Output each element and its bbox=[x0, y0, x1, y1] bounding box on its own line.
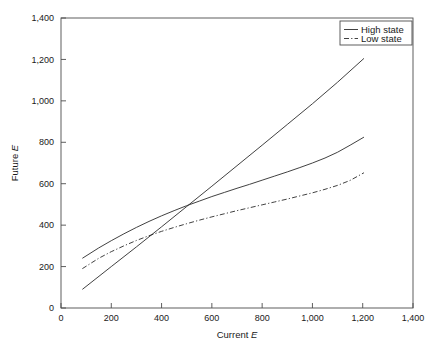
x-tick-label: 400 bbox=[154, 313, 169, 323]
y-tick-label: 1,400 bbox=[31, 13, 54, 23]
series-line-low-state-2 bbox=[82, 173, 364, 269]
x-tick-label: 1,400 bbox=[402, 313, 425, 323]
y-tick-label: 1,200 bbox=[31, 55, 54, 65]
x-tick-label: 0 bbox=[58, 313, 63, 323]
y-tick-label: 600 bbox=[39, 179, 54, 189]
y-axis-title: Future E bbox=[9, 144, 20, 181]
legend-label-low-state: Low state bbox=[361, 33, 402, 44]
x-tick-labels: 02004006008001,0001,2001,400 bbox=[58, 313, 424, 323]
series-line-high-state-1 bbox=[82, 58, 364, 289]
chart-legend: High state Low state bbox=[340, 21, 412, 45]
x-tick-label: 1,200 bbox=[351, 313, 374, 323]
x-tick-label: 1,000 bbox=[301, 313, 324, 323]
y-tick-label: 0 bbox=[49, 303, 54, 313]
series-line-high-state-0 bbox=[82, 137, 364, 258]
y-tick-labels: 02004006008001,0001,2001,400 bbox=[31, 13, 54, 313]
series-group bbox=[82, 58, 364, 289]
x-axis-title: Current E bbox=[217, 329, 258, 340]
chart-figure: 02004006008001,0001,2001,400 02004006008… bbox=[0, 0, 442, 355]
y-tick-label: 400 bbox=[39, 220, 54, 230]
y-tick-marks bbox=[61, 18, 66, 308]
line-chart: 02004006008001,0001,2001,400 02004006008… bbox=[0, 0, 442, 355]
y-tick-label: 1,000 bbox=[31, 96, 54, 106]
x-tick-label: 600 bbox=[204, 313, 219, 323]
x-tick-label: 200 bbox=[104, 313, 119, 323]
y-tick-label: 200 bbox=[39, 262, 54, 272]
x-tick-marks bbox=[61, 303, 413, 308]
x-tick-label: 800 bbox=[255, 313, 270, 323]
y-tick-label: 800 bbox=[39, 137, 54, 147]
